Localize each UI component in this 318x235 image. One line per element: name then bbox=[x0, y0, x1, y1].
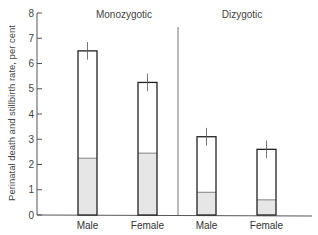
group-label-dizygotic: Dizygotic bbox=[222, 9, 263, 20]
y-tick-label: 8 bbox=[28, 8, 34, 19]
y-tick-label: 2 bbox=[28, 159, 34, 170]
x-category-label: Female bbox=[250, 220, 284, 231]
bar-stippled bbox=[78, 158, 97, 215]
y-tick-label: 4 bbox=[28, 109, 34, 120]
axes: 012345678 bbox=[28, 8, 312, 221]
bar-chart: 012345678 MaleFemaleMaleFemale Monozygot… bbox=[0, 0, 318, 235]
y-tick-label: 7 bbox=[28, 33, 34, 44]
y-tick-label: 1 bbox=[28, 184, 34, 195]
y-tick-label: 5 bbox=[28, 83, 34, 94]
x-category-label: Female bbox=[131, 220, 165, 231]
bars: MaleFemaleMaleFemale bbox=[77, 42, 284, 231]
bar-stippled bbox=[138, 153, 157, 215]
y-axis-title: Perinatal death and stillbirth rate, per… bbox=[6, 25, 17, 201]
group-label-monozygotic: Monozygotic bbox=[96, 9, 152, 20]
bar-stippled bbox=[257, 200, 276, 215]
y-tick-label: 6 bbox=[28, 58, 34, 69]
y-tick-label: 0 bbox=[28, 210, 34, 221]
y-tick-label: 3 bbox=[28, 134, 34, 145]
x-category-label: Male bbox=[77, 220, 99, 231]
bar-stippled bbox=[197, 192, 216, 215]
x-category-label: Male bbox=[196, 220, 218, 231]
